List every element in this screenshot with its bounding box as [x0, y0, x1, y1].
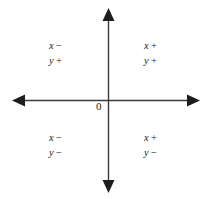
- x-axis-left-arrow-icon: [12, 95, 25, 107]
- quadrant-2-x-sign: −: [54, 40, 62, 51]
- quadrant-2-label: x− y+: [49, 38, 62, 68]
- quadrant-4-y-sign: −: [149, 147, 157, 158]
- quadrant-4-y-row: y−: [144, 145, 157, 160]
- quadrant-3-label: x− y−: [49, 130, 62, 160]
- quadrant-4-label: x+ y−: [144, 130, 157, 160]
- quadrant-3-y-row: y−: [49, 145, 62, 160]
- quadrant-1-x-sign: +: [149, 40, 157, 51]
- quadrant-2-x-row: x−: [49, 38, 62, 53]
- quadrant-1-label: x+ y+: [144, 38, 157, 68]
- quadrant-1-y-sign: +: [149, 55, 157, 66]
- quadrant-3-y-sign: −: [54, 147, 62, 158]
- quadrant-3-x-sign: −: [54, 132, 62, 143]
- y-axis-bottom-arrow-icon: [103, 180, 115, 193]
- x-axis-right-arrow-icon: [187, 95, 200, 107]
- quadrant-1-y-row: y+: [144, 53, 157, 68]
- axes-group: [0, 0, 209, 199]
- quadrant-4-x-row: x+: [144, 130, 157, 145]
- quadrant-2-y-row: y+: [49, 53, 62, 68]
- y-axis-top-arrow-icon: [103, 8, 115, 21]
- quadrant-2-y-sign: +: [54, 55, 62, 66]
- quadrant-3-x-row: x−: [49, 130, 62, 145]
- coordinate-plane-figure: 0 x− y+ x+ y+ x− y− x+ y−: [0, 0, 209, 199]
- origin-label: 0: [96, 100, 102, 113]
- quadrant-4-x-sign: +: [149, 132, 157, 143]
- quadrant-1-x-row: x+: [144, 38, 157, 53]
